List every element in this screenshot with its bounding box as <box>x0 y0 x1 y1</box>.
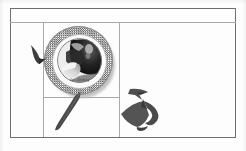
plate-halftone-rim: abc. Abcdefg <box>44 26 113 95</box>
table-border-right <box>235 8 236 138</box>
page-root: abc. Abcdefg <box>0 0 246 151</box>
dark-angular-silhouette <box>119 87 171 133</box>
plate-caption: abc. Abcdefg <box>44 78 113 82</box>
plate-figure: abc. Abcdefg <box>43 25 115 98</box>
table-border-bottom <box>10 137 236 138</box>
knife-blade-shape <box>52 92 84 132</box>
pointer-wedge-icon <box>30 44 48 66</box>
table-header-cell <box>12 10 234 21</box>
table-border-left <box>10 8 11 138</box>
table-border-top <box>10 8 236 9</box>
plate-photo-inset <box>57 38 102 83</box>
